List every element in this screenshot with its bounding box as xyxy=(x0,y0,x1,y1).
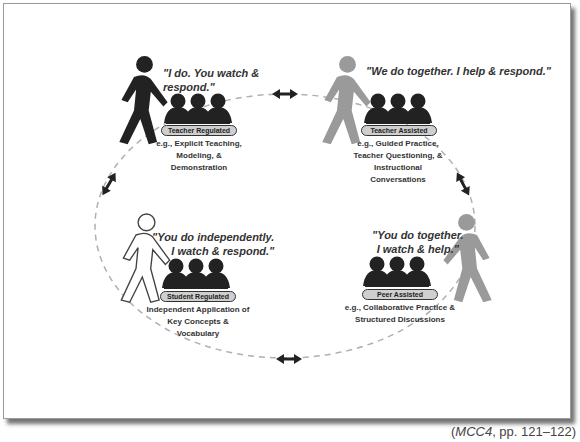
quote-line: "You do together. xyxy=(372,228,464,242)
quote-line: I watch & help." xyxy=(372,242,464,256)
double-arrow-bottom-icon xyxy=(276,354,302,364)
desc-teacher-regulated: e.g., Explicit Teaching, Modeling, & Dem… xyxy=(145,138,253,174)
desc-line: Structured Discussions xyxy=(342,314,458,326)
quote-line: "I do. You watch & xyxy=(163,66,259,80)
desc-peer-assisted: e.g., Collaborative Practice & Structure… xyxy=(342,302,458,326)
quote-peer-assisted: "You do together. I watch & help." xyxy=(372,228,464,256)
student-group-icon xyxy=(363,257,431,288)
quote-teacher-assisted: "We do together. I help & respond." xyxy=(366,64,551,78)
quote-line: I watch & respond." xyxy=(152,244,274,258)
quote-teacher-regulated: "I do. You watch & respond." xyxy=(163,66,259,94)
double-arrow-top-icon xyxy=(272,89,298,99)
teacher-figure-outline-icon xyxy=(121,214,169,302)
label-peer-assisted: Peer Assisted xyxy=(362,289,438,300)
quote-student-regulated: "You do independently. I watch & respond… xyxy=(152,230,274,258)
student-group-icon xyxy=(162,259,230,290)
desc-line: Demonstration xyxy=(145,162,253,174)
desc-line: e.g., Guided Practice, xyxy=(346,138,450,150)
desc-line: Modeling, & xyxy=(145,150,253,162)
desc-line: Instructional Conversations xyxy=(346,162,450,186)
quote-line: respond." xyxy=(163,80,259,94)
desc-line: e.g., Collaborative Practice & xyxy=(342,302,458,314)
desc-line: Independent Application of xyxy=(146,304,250,316)
desc-line: Key Concepts & Vocabulary xyxy=(146,316,250,340)
student-group-icon xyxy=(164,94,232,125)
desc-line: e.g., Explicit Teaching, xyxy=(145,138,253,150)
caption-source: MCC4 xyxy=(455,424,492,439)
caption-pages: , pp. 121–122) xyxy=(492,424,576,439)
quote-line: "You do independently. xyxy=(152,230,274,244)
label-teacher-assisted: Teacher Assisted xyxy=(361,125,437,136)
source-caption: (MCC4, pp. 121–122) xyxy=(451,424,576,439)
label-teacher-regulated: Teacher Regulated xyxy=(161,125,237,136)
desc-student-regulated: Independent Application of Key Concepts … xyxy=(146,304,250,340)
desc-line: Teacher Questioning, & xyxy=(346,150,450,162)
double-arrow-right-icon xyxy=(452,170,473,198)
label-student-regulated: Student Regulated xyxy=(160,291,236,302)
student-group-icon xyxy=(364,94,432,125)
desc-teacher-assisted: e.g., Guided Practice, Teacher Questioni… xyxy=(346,138,450,186)
